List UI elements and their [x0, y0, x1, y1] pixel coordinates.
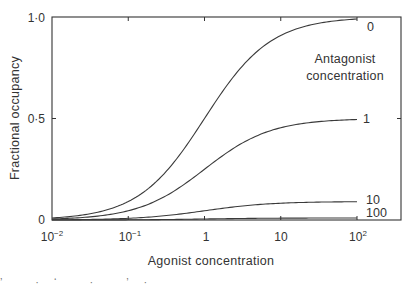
curve-antagonist-0 [52, 19, 357, 218]
series-label-100: 100 [366, 206, 387, 220]
x-tick-label-0.01: 10−2 [41, 229, 64, 244]
x-tick-label-0.1: 10−1 [119, 229, 142, 244]
legend-title-line2: concentration [306, 69, 384, 83]
y-tick-label-05: 0·5 [28, 112, 46, 126]
series-label-1: 1 [363, 112, 370, 126]
x-axis-title: Agonist concentration [148, 254, 275, 268]
curve-antagonist-1 [52, 120, 357, 220]
cropped-caption-fragment: ’ . · ‘ . · , ’ · [0, 276, 411, 284]
plot-frame [52, 17, 401, 220]
series-label-10: 10 [366, 193, 380, 207]
series-label-0: 0 [367, 20, 374, 34]
legend-title-line1: Antagonist [314, 52, 375, 66]
y-tick-label-0: 0 [38, 213, 45, 227]
y-axis-title: Fractional occupancy [8, 55, 22, 180]
tick-group [52, 17, 401, 220]
curve-group [52, 19, 357, 220]
x-tick-label-10: 10 [274, 230, 288, 244]
x-tick-label-1: 1 [203, 230, 210, 244]
x-tick-label-100: 102 [349, 229, 367, 244]
y-tick-label-1: 1·0 [28, 11, 46, 25]
